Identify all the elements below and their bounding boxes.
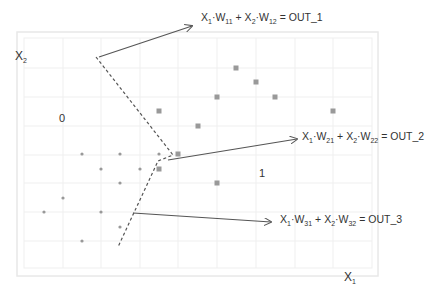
class0-point [80,239,83,242]
class1-point [176,152,181,157]
class1-point [157,167,162,172]
class1-point [215,181,220,186]
eq-sub: 1 [287,220,291,227]
eq-sub: 12 [269,18,277,25]
class0-point [61,196,64,199]
class0-point [118,181,121,184]
class0-point [80,152,83,155]
eq-op: + [236,11,242,23]
class0-point [99,210,102,213]
eq-term: W [339,213,349,225]
eq-term: W [361,130,371,142]
equation-out1: X1·W11 + X2·W12 = OUT_1 [201,12,323,23]
x-axis-label: X1 [344,271,356,283]
arrow-out2 [168,139,297,160]
eq-sub: 2 [353,137,357,144]
class1-point [234,66,239,71]
equation-out2: X1·W21 + X2·W22 = OUT_2 [302,131,424,142]
eq-term: X [201,11,208,23]
y-axis-sub: 2 [23,57,27,64]
x-axis-text: X [344,270,352,284]
class0-point [42,210,45,213]
eq-op: + [337,130,343,142]
eq-op: + [315,213,321,225]
outer-frame [17,32,378,276]
class1-label: 1 [259,168,265,179]
class1-point [215,95,220,100]
class1-point [273,95,278,100]
class1-point [196,124,201,129]
eq-sub: 22 [370,137,378,144]
inner-frame [24,38,372,268]
x-axis-sub: 1 [352,278,356,285]
eq-rhs: = OUT_3 [359,213,402,225]
eq-term: W [215,11,225,23]
class0-point [138,167,141,170]
class0-point [118,225,121,228]
eq-sub: 21 [326,137,334,144]
diagram-canvas [0,0,437,299]
eq-term: W [316,130,326,142]
eq-term: X [280,213,287,225]
class0-point [118,152,121,155]
y-axis-text: X [15,49,23,63]
class1-point [157,109,162,114]
eq-sub: 32 [348,220,356,227]
y-axis-label: X2 [15,50,27,62]
eq-term: X [302,130,309,142]
eq-sub: 2 [252,18,256,25]
eq-term: W [259,11,269,23]
eq-sub: 11 [225,18,232,25]
eq-sub: 31 [304,220,312,227]
class1-point [254,80,259,85]
eq-term: X [245,11,252,23]
decision-boundary [96,57,173,247]
class1-point [331,109,336,114]
equation-out3: X1·W31 + X2·W32 = OUT_3 [280,214,402,225]
class0-point [157,152,160,155]
class0-label: 0 [59,113,65,124]
eq-rhs: = OUT_2 [381,130,424,142]
grid [24,38,372,268]
eq-sub: 1 [208,18,212,25]
arrow-out3 [133,213,271,222]
eq-rhs: = OUT_1 [280,11,323,23]
eq-sub: 1 [309,137,313,144]
eq-term: W [294,213,304,225]
eq-sub: 2 [331,220,335,227]
class0-point [99,167,102,170]
